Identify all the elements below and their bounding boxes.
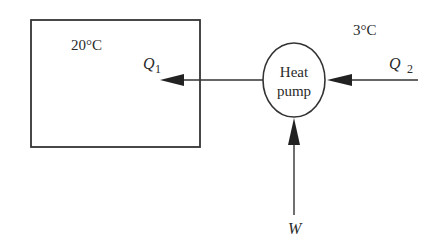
q1-symbol: Q <box>143 55 155 72</box>
work-label: W <box>288 220 303 237</box>
q1-subscript: 1 <box>155 62 161 76</box>
q2-label: Q 2 <box>389 55 413 76</box>
heat-pump-diagram: 20°C 3°C Heat pump Q 1 Q 2 W <box>0 0 437 249</box>
heat-pump-label-line1: Heat <box>280 64 309 80</box>
q1-label: Q 1 <box>143 55 161 76</box>
work-arrow-icon <box>288 118 300 215</box>
q1-arrow-icon <box>160 74 263 86</box>
heat-pump-label-line2: pump <box>277 83 311 99</box>
outside-temperature-label: 3°C <box>353 22 377 38</box>
q2-subscript: 2 <box>407 62 413 76</box>
q2-symbol: Q <box>389 55 401 72</box>
room-temperature-label: 20°C <box>71 37 102 53</box>
heat-pump-circle <box>263 43 325 117</box>
q2-arrow-icon <box>327 74 418 86</box>
